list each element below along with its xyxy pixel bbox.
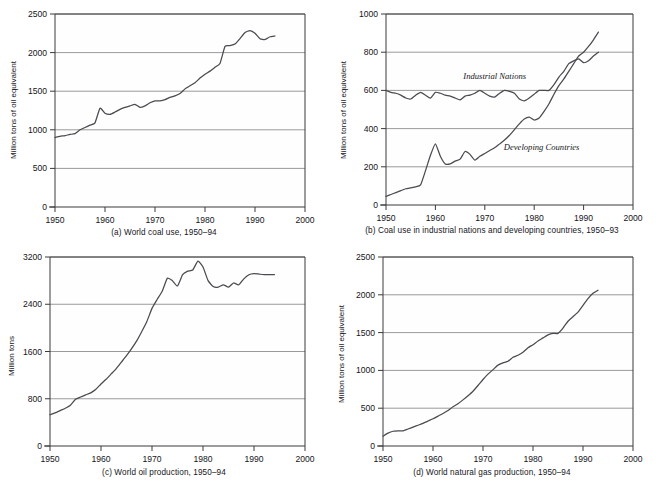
y-tick-label: 200 <box>364 162 379 172</box>
x-tick-label: 1990 <box>244 454 263 464</box>
x-tick-label: 1960 <box>426 213 445 223</box>
y-tick-label: 1600 <box>23 347 42 357</box>
x-tick-label: 1950 <box>45 215 64 225</box>
x-tick-label: 1980 <box>193 454 212 464</box>
figure-panel-grid: 0500100015002000250019501960197019801990… <box>0 0 656 493</box>
plot-background <box>383 257 633 446</box>
y-axis-label: Million tons <box>7 336 16 376</box>
x-tick-label: 2000 <box>623 213 642 223</box>
series-label-industrial-nations: Industrial Nations <box>462 71 526 81</box>
y-axis-label: Million tons of oil equivalent <box>337 304 346 403</box>
x-tick-label: 1970 <box>142 454 161 464</box>
x-tick-label: 1960 <box>423 454 442 464</box>
x-tick-label: 1970 <box>473 454 492 464</box>
y-tick-label: 1500 <box>356 328 375 338</box>
panel-d-plot: 0500100015002000250019501960197019801990… <box>328 246 656 493</box>
y-tick-label: 2000 <box>28 48 47 58</box>
plot-background <box>55 14 305 207</box>
y-tick-label: 2500 <box>28 9 47 19</box>
y-tick-label: 1500 <box>28 86 47 96</box>
x-tick-label: 1950 <box>40 454 59 464</box>
x-tick-label: 1980 <box>195 215 214 225</box>
y-axis-label: Million tons of oil equivalent <box>339 60 348 159</box>
panel-d-svg: 0500100015002000250019501960197019801990… <box>328 246 656 471</box>
panel-c-svg: 0800160024003200195019601970198019902000… <box>0 246 328 471</box>
x-tick-label: 1960 <box>95 215 114 225</box>
panel-c-plot: 0800160024003200195019601970198019902000… <box>0 246 328 493</box>
y-tick-label: 2000 <box>356 290 375 300</box>
y-tick-label: 600 <box>364 85 379 95</box>
y-tick-label: 1000 <box>359 9 378 19</box>
x-tick-label: 1960 <box>91 454 110 464</box>
x-tick-label: 1980 <box>523 454 542 464</box>
x-tick-label: 1990 <box>573 454 592 464</box>
panel-a-svg: 0500100015002000250019501960197019801990… <box>0 0 328 225</box>
y-tick-label: 0 <box>370 441 375 451</box>
x-tick-label: 1990 <box>574 213 593 223</box>
panel-d-caption: (d) World natural gas production, 1950–9… <box>328 468 656 477</box>
panel-b-svg: 0200400600800100019501960197019801990200… <box>328 0 656 225</box>
y-tick-label: 800 <box>28 394 43 404</box>
x-tick-label: 1980 <box>525 213 544 223</box>
panel-b-caption: (b) Coal use in industrial nations and d… <box>328 226 656 235</box>
y-tick-label: 3200 <box>23 252 42 262</box>
panel-a-caption: (a) World coal use, 1950–94 <box>0 228 328 237</box>
panel-b: 0200400600800100019501960197019801990200… <box>328 0 656 246</box>
series-label-developing-countries: Developing Countries <box>503 142 580 152</box>
x-tick-label: 1970 <box>145 215 164 225</box>
panel-d: 0500100015002000250019501960197019801990… <box>328 246 656 493</box>
y-tick-label: 2500 <box>356 252 375 262</box>
y-tick-label: 500 <box>361 403 376 413</box>
panel-a-plot: 0500100015002000250019501960197019801990… <box>0 0 328 246</box>
x-tick-label: 1990 <box>245 215 264 225</box>
x-tick-label: 1970 <box>475 213 494 223</box>
panel-a: 0500100015002000250019501960197019801990… <box>0 0 328 246</box>
y-tick-label: 0 <box>37 441 42 451</box>
y-tick-label: 500 <box>33 163 48 173</box>
x-tick-label: 1950 <box>373 454 392 464</box>
x-tick-label: 1950 <box>376 213 395 223</box>
y-tick-label: 400 <box>364 124 379 134</box>
y-tick-label: 0 <box>373 200 378 210</box>
x-tick-label: 2000 <box>295 215 314 225</box>
y-tick-label: 1000 <box>28 125 47 135</box>
y-tick-label: 0 <box>42 202 47 212</box>
x-tick-label: 2000 <box>295 454 314 464</box>
panel-c-caption: (c) World oil production, 1950–94 <box>0 468 328 477</box>
panel-b-plot: 0200400600800100019501960197019801990200… <box>328 0 656 246</box>
x-tick-label: 2000 <box>623 454 642 464</box>
y-axis-label: Million tons of oil equivalent <box>9 60 18 159</box>
y-tick-label: 2400 <box>23 299 42 309</box>
panel-c: 0800160024003200195019601970198019902000… <box>0 246 328 493</box>
y-tick-label: 800 <box>364 47 379 57</box>
y-tick-label: 1000 <box>356 365 375 375</box>
